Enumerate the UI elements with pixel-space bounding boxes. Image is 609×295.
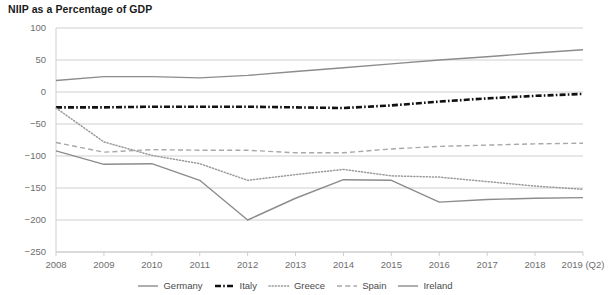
legend-item-germany[interactable]: Germany [137,280,202,291]
y-axis-tick-label: −200 [6,214,46,225]
y-axis-tick-label: −250 [6,246,46,257]
y-axis-tick-label: 50 [6,54,46,65]
legend-line-swatch [137,281,159,291]
x-axis-tick-label: 2019 (Q2) [551,259,609,270]
plot-background [56,28,583,252]
legend-line-swatch [397,281,419,291]
legend-item-italy[interactable]: Italy [214,280,257,291]
y-axis-tick-label: 100 [6,22,46,33]
y-axis-tick-label: −150 [6,182,46,193]
legend-item-label: Spain [362,280,386,291]
legend-item-label: Italy [240,280,257,291]
legend-item-label: Germany [163,280,202,291]
legend-item-ireland[interactable]: Ireland [397,280,452,291]
y-axis-tick-label: −100 [6,150,46,161]
legend-item-label: Greece [294,280,325,291]
legend-item-label: Ireland [423,280,452,291]
legend-line-swatch [214,281,236,291]
y-axis-tick-label: 0 [6,86,46,97]
legend-item-spain[interactable]: Spain [336,280,386,291]
y-axis-tick-label: −50 [6,118,46,129]
legend-line-swatch [268,281,290,291]
legend-line-swatch [336,281,358,291]
legend-item-greece[interactable]: Greece [268,280,325,291]
chart-legend: GermanyItalyGreeceSpainIreland [0,280,590,291]
